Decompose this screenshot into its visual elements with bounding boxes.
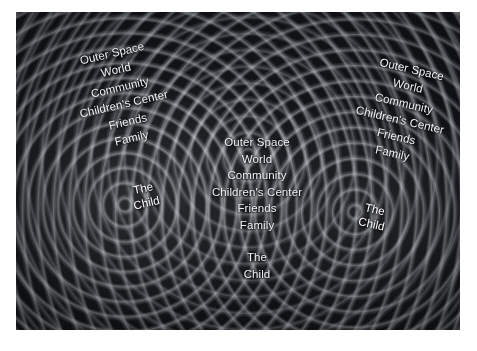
- label-the-child-right: The Child: [337, 195, 408, 240]
- label-block-center: Outer Space World Community Children's C…: [198, 134, 316, 282]
- label-world-right: World: [332, 61, 460, 112]
- concentric-rings-left: [16, 12, 460, 330]
- label-world-center: World: [198, 151, 316, 168]
- nested-systems-figure: Outer Space World Community Children's C…: [0, 0, 477, 351]
- label-community-center: Community: [198, 167, 316, 184]
- label-world-left: World: [28, 43, 203, 100]
- label-outer-space-center: Outer Space: [198, 134, 316, 151]
- label-childrens-center-left: Children's Center: [36, 77, 211, 134]
- concentric-rings-right: [16, 12, 460, 330]
- label-friends-right: Friends: [320, 111, 460, 162]
- label-family-center: Family: [198, 217, 316, 234]
- label-childrens-center-center: Children's Center: [198, 184, 316, 201]
- label-childrens-center-right: Children's Center: [324, 95, 460, 146]
- concentric-rings-center: [16, 12, 460, 330]
- label-the-child-left: The Child: [109, 174, 180, 219]
- label-family-right: Family: [316, 128, 460, 179]
- label-block-right: Outer Space World Community Children's C…: [316, 44, 460, 179]
- label-community-right: Community: [328, 78, 460, 129]
- label-spacer-center: [198, 233, 316, 249]
- label-child-center: Child: [198, 266, 316, 283]
- label-family-left: Family: [44, 111, 219, 168]
- label-friends-left: Friends: [40, 94, 215, 151]
- interference-pattern-plate: Outer Space World Community Children's C…: [16, 12, 460, 330]
- label-outer-space-left: Outer Space: [24, 26, 199, 83]
- halftone-grain-overlay: [16, 12, 460, 330]
- label-block-left: Outer Space World Community Children's C…: [24, 26, 219, 168]
- label-community-left: Community: [32, 60, 207, 117]
- label-friends-center: Friends: [198, 200, 316, 217]
- label-the-center: The: [198, 249, 316, 266]
- label-outer-space-right: Outer Space: [336, 44, 460, 95]
- vignette-overlay: [16, 12, 460, 330]
